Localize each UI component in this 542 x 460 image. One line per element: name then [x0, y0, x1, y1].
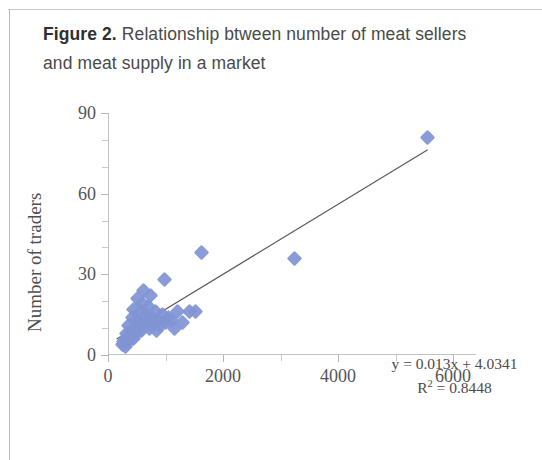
figure-page: Figure 2. Relationship btween number of …: [0, 0, 542, 460]
y-tick-major: [101, 355, 108, 356]
data-point: [419, 129, 435, 145]
y-tick-label: 30: [64, 265, 96, 283]
y-tick-minor: [102, 221, 108, 222]
figure-caption: Figure 2. Relationship btween number of …: [43, 20, 483, 78]
y-axis-line: [108, 113, 109, 355]
y-tick-minor: [102, 328, 108, 329]
y-tick-minor: [102, 301, 108, 302]
r-squared-value: R2 = 0.8448: [372, 374, 537, 398]
page-border-top: [8, 9, 542, 10]
y-tick-minor: [102, 247, 108, 248]
data-point: [287, 250, 303, 266]
x-tick-minor: [166, 355, 167, 361]
scatter-chart: Number of traders 03060900200040006000 M…: [0, 96, 542, 396]
x-tick-major: [108, 355, 109, 362]
x-tick-minor: [281, 355, 282, 361]
plot-area: 03060900200040006000: [108, 113, 476, 355]
y-tick-label: 90: [64, 104, 96, 122]
y-tick-major: [101, 274, 108, 275]
x-tick-label: 2000: [183, 367, 263, 385]
y-tick-minor: [102, 140, 108, 141]
x-tick-major: [338, 355, 339, 362]
regression-equation: y = 0.013x + 4.0341: [372, 354, 537, 374]
regression-annotation: y = 0.013x + 4.0341 R2 = 0.8448: [372, 354, 537, 398]
data-point: [157, 272, 173, 288]
y-tick-minor: [102, 167, 108, 168]
y-tick-label: 0: [64, 346, 96, 364]
y-tick-major: [101, 113, 108, 114]
figure-number-label: Figure 2.: [43, 24, 117, 44]
y-tick-major: [101, 194, 108, 195]
data-point: [193, 245, 209, 261]
y-axis-title: Number of traders: [24, 193, 46, 332]
x-tick-major: [223, 355, 224, 362]
y-tick-label: 60: [64, 185, 96, 203]
x-tick-label: 0: [68, 367, 148, 385]
x-tick-label: 4000: [298, 367, 378, 385]
